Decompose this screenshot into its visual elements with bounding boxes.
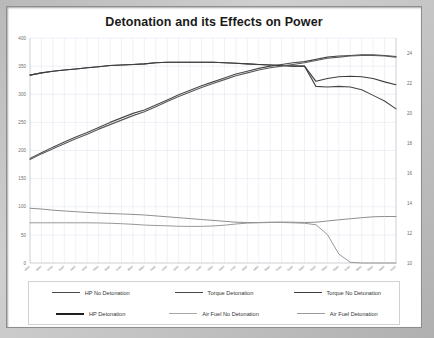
y-axis-left-tick-label: 350 bbox=[18, 64, 26, 69]
x-axis-tick-label: 5600 bbox=[332, 265, 340, 273]
legend-row: HP No DetonationTorque DetonationTorque … bbox=[29, 282, 399, 303]
legend-label: HP No Detonation bbox=[85, 290, 130, 296]
x-axis-tick-label: 4400 bbox=[195, 265, 203, 273]
y-axis-right-tick-label: 12 bbox=[407, 231, 413, 236]
legend-item[interactable]: Torque No Detonation bbox=[276, 290, 399, 296]
legend-item[interactable]: HP Detonation bbox=[29, 311, 152, 317]
x-axis-tick-label: 4300 bbox=[183, 265, 191, 273]
y-axis-left-tick-label: 300 bbox=[18, 92, 26, 97]
y-axis-right-tick-label: 18 bbox=[407, 141, 413, 146]
legend-swatch-icon bbox=[175, 292, 203, 293]
legend-label: Torque Detonation bbox=[208, 290, 254, 296]
x-axis-tick-label: 5900 bbox=[366, 265, 374, 273]
legend-row: HP DetonationAir Fuel No DetonationAir F… bbox=[29, 303, 399, 324]
legend-item[interactable]: HP No Detonation bbox=[29, 290, 152, 296]
x-axis-tick-label: 4200 bbox=[172, 265, 180, 273]
x-axis-tick-label: 3500 bbox=[92, 265, 100, 273]
y-axis-left-tick-label: 100 bbox=[18, 204, 26, 209]
y-axis-left-tick-label: 200 bbox=[18, 148, 26, 153]
y-axis-right-tick-label: 20 bbox=[407, 111, 413, 116]
x-axis-tick-label: 4900 bbox=[252, 265, 260, 273]
x-axis-tick-label: 3200 bbox=[58, 265, 66, 273]
legend-label: HP Detonation bbox=[89, 311, 125, 317]
legend-swatch-icon bbox=[294, 292, 322, 293]
x-axis-tick-label: 3000 bbox=[35, 265, 43, 273]
y-axis-left-tick-label: 0 bbox=[23, 261, 26, 266]
x-axis-tick-label: 5000 bbox=[263, 265, 271, 273]
x-axis-tick-label: 3300 bbox=[69, 265, 77, 273]
x-axis-tick-label: 3600 bbox=[103, 265, 111, 273]
x-axis-tick-label: 5500 bbox=[321, 265, 329, 273]
x-axis-tick-label: 5800 bbox=[355, 265, 363, 273]
x-axis-tick-label: 3400 bbox=[80, 265, 88, 273]
x-axis-tick-label: 3900 bbox=[138, 265, 146, 273]
x-axis-tick-label: 5300 bbox=[298, 265, 306, 273]
legend-item[interactable]: Air Fuel No Detonation bbox=[152, 311, 275, 317]
y-axis-left-tick-label: 50 bbox=[21, 233, 27, 238]
y-axis-right-tick-label: 24 bbox=[407, 51, 413, 56]
x-axis-tick-label: 4500 bbox=[206, 265, 214, 273]
legend-label: Air Fuel Detonation bbox=[330, 311, 378, 317]
y-axis-left-tick-label: 250 bbox=[18, 120, 26, 125]
legend-item[interactable]: Air Fuel Detonation bbox=[276, 311, 399, 317]
legend-swatch-icon bbox=[297, 313, 325, 314]
y-axis-left-tick-label: 150 bbox=[18, 176, 26, 181]
legend-swatch-icon bbox=[56, 313, 84, 315]
y-axis-left-tick-label: 400 bbox=[18, 36, 26, 41]
x-axis-tick-label: 3700 bbox=[115, 265, 123, 273]
x-axis-tick-label: 4800 bbox=[241, 265, 249, 273]
x-axis-tick-label: 5400 bbox=[309, 265, 317, 273]
legend-label: Air Fuel No Detonation bbox=[202, 311, 259, 317]
x-axis-tick-label: 5100 bbox=[275, 265, 283, 273]
x-axis-tick-label: 5200 bbox=[286, 265, 294, 273]
x-axis-tick-label: 6100 bbox=[389, 265, 397, 273]
y-axis-right-tick-label: 14 bbox=[407, 201, 413, 206]
x-axis-tick-label: 4100 bbox=[160, 265, 168, 273]
x-axis-tick-label: 3100 bbox=[46, 265, 54, 273]
x-axis-tick-label: 3800 bbox=[126, 265, 134, 273]
legend-label: Torque No Detonation bbox=[327, 290, 381, 296]
x-axis-tick-label: 5700 bbox=[343, 265, 351, 273]
x-axis-tick-label: 4600 bbox=[218, 265, 226, 273]
legend-item[interactable]: Torque Detonation bbox=[152, 290, 275, 296]
x-axis-tick-label: 4700 bbox=[229, 265, 237, 273]
x-axis-tick-label: 6000 bbox=[378, 265, 386, 273]
y-axis-right-tick-label: 22 bbox=[407, 81, 413, 86]
legend-swatch-icon bbox=[169, 313, 197, 314]
y-axis-right-tick-label: 10 bbox=[407, 261, 413, 266]
chart-legend: HP No DetonationTorque DetonationTorque … bbox=[28, 281, 400, 325]
legend-swatch-icon bbox=[52, 292, 80, 293]
y-axis-right-tick-label: 16 bbox=[407, 171, 413, 176]
x-axis-tick-label: 4000 bbox=[149, 265, 157, 273]
